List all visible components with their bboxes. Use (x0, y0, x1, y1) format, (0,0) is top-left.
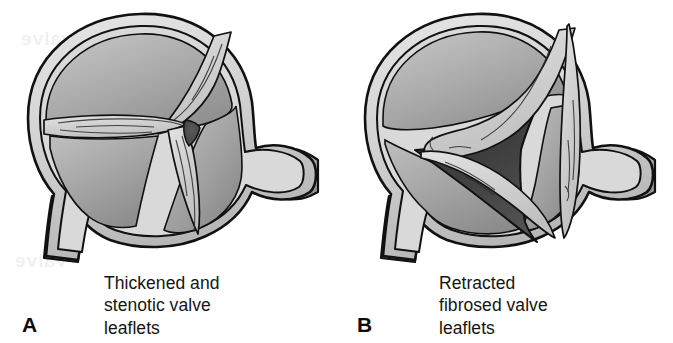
caption-line: leaflets (104, 317, 314, 339)
caption-line: stenotic valve (104, 294, 314, 316)
panel-a-illustration (0, 0, 336, 270)
caption-line: fibrosed valve (439, 294, 649, 316)
caption-line: Thickened and (104, 272, 314, 294)
panel-label-a: A (22, 314, 37, 335)
panel-caption-a: Thickened and stenotic valve leaflets (104, 272, 314, 339)
caption-line: leaflets (439, 317, 649, 339)
panel-b-illustration (337, 0, 673, 270)
panel-b: B Retracted fibrosed valve leaflets (337, 0, 673, 343)
panel-a: A Thickened and stenotic valve leaflets (0, 0, 336, 343)
panel-caption-b: Retracted fibrosed valve leaflets (439, 272, 649, 339)
valve-pathology-figure: valve leaflets peri devel opm valve (0, 0, 673, 343)
caption-line: Retracted (439, 272, 649, 294)
panel-label-b: B (357, 314, 372, 335)
